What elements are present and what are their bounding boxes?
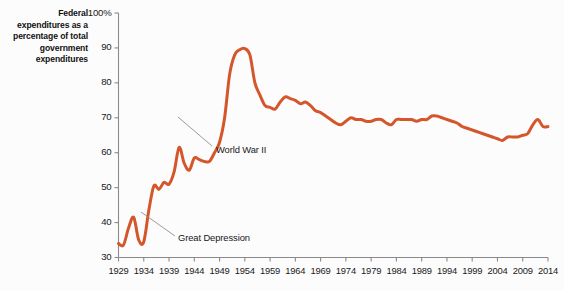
chart-figure: Federal expenditures as a percentage of … [0,0,564,290]
chart-axes [115,13,549,262]
annotation-label: Great Depression [178,232,250,243]
y-axis-tick-label: 100% [88,7,112,18]
x-axis-tick-label: 2014 [532,265,564,276]
x-axis-ticks [119,258,549,262]
annotation-leader-lines [141,117,212,236]
annotation-leader-line [178,117,212,146]
y-axis-tick-label: 50 [101,181,111,192]
series-line [119,48,549,246]
chart-series-group [119,48,549,246]
y-axis-tick-label: 80 [101,76,111,87]
annotation-label: World War II [216,144,266,155]
y-axis-ticks [115,13,119,258]
y-axis-tick-label: 70 [101,111,111,122]
y-axis-tick-label: 60 [101,146,111,157]
y-axis-tick-label: 90 [101,41,111,52]
y-axis-tick-label: 30 [101,251,111,262]
chart-plot-area [0,0,564,290]
y-axis-tick-label: 40 [101,216,111,227]
